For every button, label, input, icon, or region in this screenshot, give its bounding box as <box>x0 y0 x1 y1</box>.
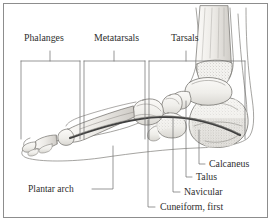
bracket-phalanges <box>21 61 80 139</box>
foot-anatomy-figure: Phalanges Metatarsals Tarsals Plantar ar… <box>0 0 273 223</box>
navicular-bone <box>162 94 182 115</box>
label-metatarsals: Metatarsals <box>94 33 139 43</box>
label-plantar-arch: Plantar arch <box>28 184 74 194</box>
label-navicular: Navicular <box>184 187 223 197</box>
label-calcaneus: Calcaneus <box>209 159 249 169</box>
phalanx-bones <box>22 135 57 156</box>
label-talus: Talus <box>196 172 217 182</box>
leader-plantar-arch <box>92 146 113 189</box>
label-tarsals: Tarsals <box>171 33 199 43</box>
label-phalanges: Phalanges <box>24 33 64 43</box>
tibia-fibula-bones <box>196 6 234 86</box>
label-cuneiform-first: Cuneiform, first <box>160 202 223 212</box>
